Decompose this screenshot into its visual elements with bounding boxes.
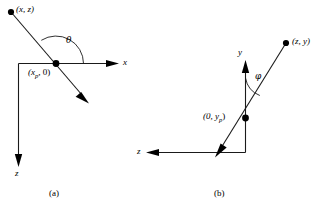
panel-b-ray-line (221, 43, 286, 148)
panel-a-caption: (a) (49, 188, 59, 198)
panel-b-origin-label-suffix: ) (222, 111, 225, 121)
panel-a-point-xp-dot (53, 60, 60, 67)
panel-a-point-xz-dot (8, 9, 14, 15)
panel-a-ray-arrowhead (76, 92, 89, 104)
panel-a-theta-arc (41, 36, 83, 63)
figure-container: (x, z) (xp, 0) θ x z (a) (z, y) (0, yp) … (0, 0, 319, 209)
panel-a-origin-label-prefix: (x (28, 67, 35, 77)
panel-b-y-axis-label: y (238, 48, 242, 57)
panel-b-z-axis-arrowhead (146, 149, 159, 156)
panel-a-x-axis-arrowhead (106, 60, 119, 67)
panel-b-origin-label: (0, yp) (203, 112, 225, 123)
panel-a-z-axis-label: z (15, 169, 19, 178)
panel-a-z-axis-arrowhead (15, 154, 22, 167)
panel-a-origin-label: (xp, 0) (28, 68, 50, 79)
panel-b-point-zy-dot (283, 40, 289, 46)
panel-b-point-yp-dot (242, 115, 249, 122)
panel-b-ray-arrowhead (215, 144, 227, 158)
panel-a-origin-label-suffix: , 0) (38, 67, 50, 77)
panel-b-phi-symbol: φ (255, 72, 261, 81)
panel-a-x-axis-label: x (123, 58, 127, 67)
diagram-vector-canvas (0, 0, 319, 209)
panel-a-theta-symbol: θ (66, 36, 71, 45)
panel-a-point-xz-label: (x, z) (16, 5, 34, 14)
panel-a-geometry (8, 9, 119, 167)
panel-b-y-axis-arrowhead (242, 60, 249, 73)
panel-b-origin-label-prefix: (0, y (203, 111, 219, 121)
panel-b-z-axis-label: z (137, 147, 141, 156)
panel-b-point-zy-label: (z, y) (292, 37, 310, 46)
panel-b-caption: (b) (214, 188, 225, 198)
panel-a-ray-line (11, 12, 82, 95)
panel-b-geometry (146, 40, 289, 158)
